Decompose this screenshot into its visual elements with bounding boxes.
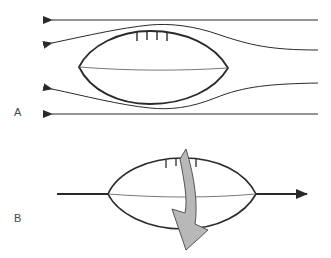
panel-b xyxy=(57,149,307,250)
panel-a xyxy=(52,20,318,114)
panel-label-a: A xyxy=(14,106,21,118)
diagram-canvas xyxy=(0,0,331,258)
panel-label-b: B xyxy=(14,212,21,224)
football-a xyxy=(79,31,228,104)
